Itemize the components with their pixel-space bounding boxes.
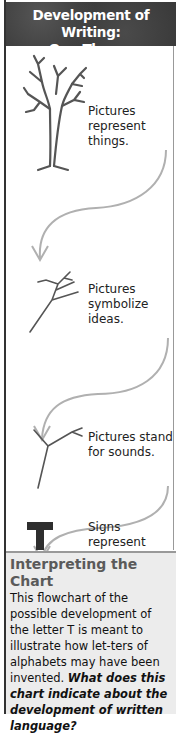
- letter-t-icon: [26, 520, 54, 550]
- interpreting-box: Interpreting the Chart This flowchart of…: [6, 551, 176, 714]
- interpreting-heading: Interpreting the Chart: [10, 556, 172, 590]
- stage-4-line-1: Signs represent: [88, 520, 173, 550]
- stage-2-line-1: Pictures: [88, 282, 173, 297]
- forked-stick-icon: [28, 426, 88, 490]
- branch-icon: [26, 270, 86, 334]
- interpreting-body: This flowchart of the possible developme…: [10, 590, 172, 734]
- stage-1-line-1: Pictures: [88, 104, 173, 119]
- curved-arrow-icon: [26, 146, 176, 268]
- stage-3-line-1: Pictures stand: [88, 430, 173, 445]
- chart-title: Development of Writing: One Theory: [6, 2, 176, 46]
- stage-1-line-2: represent things.: [88, 119, 173, 149]
- stage-3-line-2: for sounds.: [88, 445, 173, 460]
- flowchart-panel: Pictures represent things. Pictures symb…: [6, 46, 174, 550]
- title-line-1: Development of Writing:: [6, 7, 176, 41]
- stage-2-line-2: symbolize ideas.: [88, 297, 173, 327]
